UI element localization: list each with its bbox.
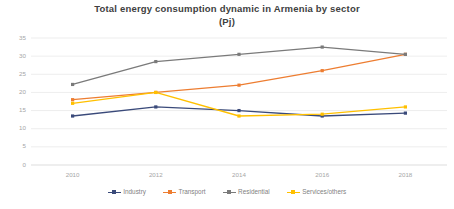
data-point-marker <box>154 91 157 94</box>
series-line-transport <box>73 54 406 99</box>
legend-label-services-others: Services/others <box>302 188 346 196</box>
y-axis-tick-label: 0 <box>23 161 27 168</box>
data-point-marker <box>237 114 240 117</box>
legend-marker-icon <box>291 190 295 194</box>
x-axis-tick-label: 2010 <box>66 171 80 178</box>
legend-item-services-others[interactable]: Services/others <box>287 188 347 196</box>
y-axis-tick-labels: 05101520253035 <box>19 34 26 168</box>
legend-label-industry: Industry <box>123 188 146 196</box>
x-axis-tick-label: 2016 <box>315 171 329 178</box>
y-axis-tick-label: 30 <box>19 52 26 59</box>
data-point-marker <box>154 105 157 108</box>
legend-marker-icon <box>168 190 172 194</box>
y-axis-tick-label: 10 <box>19 124 26 131</box>
data-point-marker <box>71 83 74 86</box>
chart-legend: IndustryTransportResidentialServices/oth… <box>0 188 454 196</box>
data-point-marker <box>71 98 74 101</box>
gridlines <box>31 38 447 165</box>
data-point-marker <box>321 69 324 72</box>
x-axis-tick-label: 2012 <box>149 171 163 178</box>
x-axis-tick-label: 2014 <box>232 171 246 178</box>
y-axis-tick-label: 5 <box>23 142 27 149</box>
legend-item-residential[interactable]: Residential <box>223 188 270 196</box>
legend-marker-icon <box>227 190 231 194</box>
legend-label-residential: Residential <box>238 188 270 196</box>
legend-swatch-industry <box>108 189 121 195</box>
data-point-marker <box>404 53 407 56</box>
data-point-marker <box>71 102 74 105</box>
legend-item-industry[interactable]: Industry <box>108 188 146 196</box>
plot-area: 05101520253035 20102012201420162018 <box>0 0 454 209</box>
y-axis-tick-label: 25 <box>19 70 26 77</box>
data-point-marker <box>154 60 157 63</box>
legend-item-transport[interactable]: Transport <box>163 188 206 196</box>
data-point-marker <box>321 113 324 116</box>
legend-swatch-services-others <box>287 189 300 195</box>
series-line-residential <box>73 47 406 84</box>
data-point-marker <box>404 112 407 115</box>
energy-consumption-line-chart: Total energy consumption dynamic in Arme… <box>0 0 454 209</box>
data-point-marker <box>321 45 324 48</box>
data-point-marker <box>71 114 74 117</box>
legend-swatch-residential <box>223 189 236 195</box>
legend-marker-icon <box>112 190 116 194</box>
y-axis-tick-label: 15 <box>19 106 26 113</box>
x-axis-tick-labels: 20102012201420162018 <box>66 171 413 178</box>
data-point-marker <box>237 53 240 56</box>
x-axis-tick-label: 2018 <box>399 171 413 178</box>
data-point-marker <box>404 105 407 108</box>
y-axis-tick-label: 35 <box>19 34 26 41</box>
legend-swatch-transport <box>163 189 176 195</box>
legend-label-transport: Transport <box>178 188 205 196</box>
data-point-marker <box>237 84 240 87</box>
data-point-marker <box>237 109 240 112</box>
y-axis-tick-label: 20 <box>19 88 26 95</box>
